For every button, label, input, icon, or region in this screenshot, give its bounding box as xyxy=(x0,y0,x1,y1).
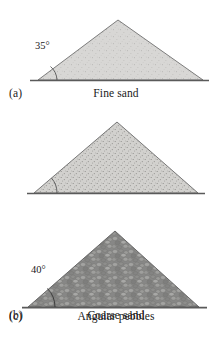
panel-title-fine-sand: Fine sand xyxy=(0,84,214,102)
angle-label-fine-sand: 35° xyxy=(35,41,50,52)
panel-fine-sand: 35° (a) Fine sand xyxy=(0,0,214,110)
panel-title-angular-pebbles: Angular pebbles xyxy=(0,307,214,325)
angle-of-repose-figure: 35° (a) Fine sand 40° xyxy=(0,0,214,343)
coarse-sand-pile-diagram xyxy=(0,110,214,223)
fine-sand-pile-body xyxy=(38,20,203,80)
panel-coarse-sand: 40° (b) Coarse sand xyxy=(0,110,214,223)
caption-fine-sand: (a) Fine sand xyxy=(0,84,214,102)
angular-pebbles-pile-body xyxy=(28,231,199,307)
angular-pebbles-pile-diagram xyxy=(0,223,214,343)
caption-angular-pebbles: (c) Angular pebbles xyxy=(0,307,214,325)
coarse-sand-pile-body xyxy=(34,122,198,193)
panel-angular-pebbles: 45° (c) Angular pebbles xyxy=(0,223,214,343)
